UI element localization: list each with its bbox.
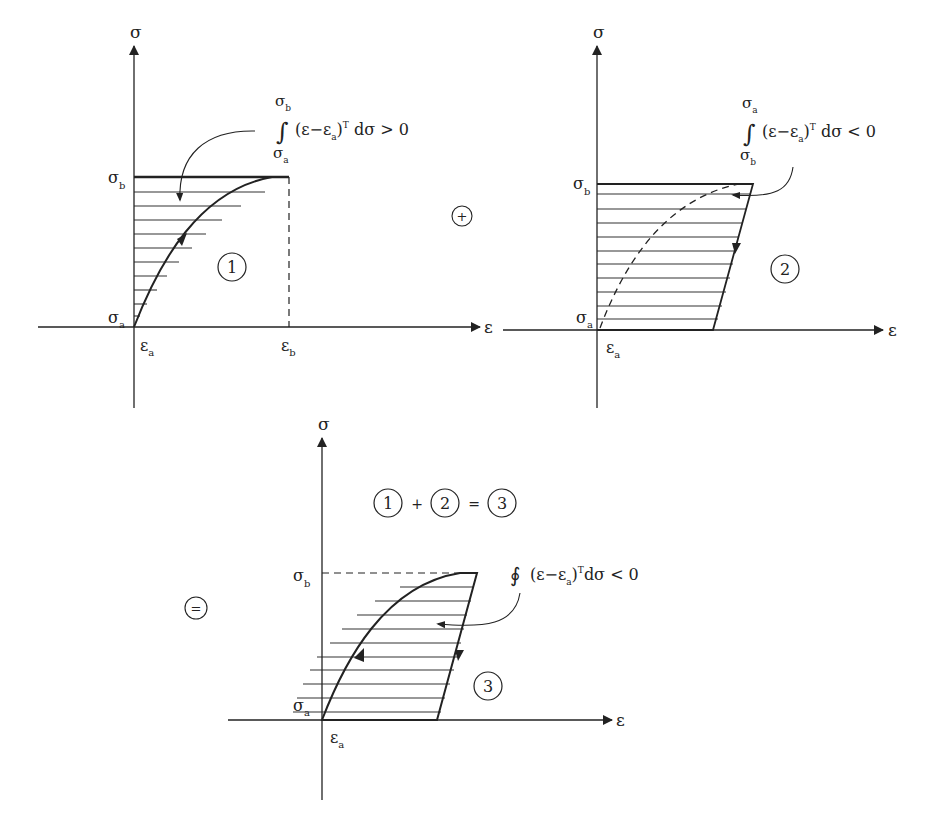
annotation-arrow-3	[438, 593, 520, 625]
region-number-1: 1	[227, 258, 237, 277]
eps-a-label-3: εa	[330, 728, 344, 750]
svg-text:(ε−εa)Tdσ < 0: (ε−εa)Tdσ < 0	[530, 565, 639, 587]
stress-strain-diagram-figure: σ σb σa εa εb 1 σb ∫ σa (ε−εa)T dσ > 0 +	[0, 0, 931, 834]
svg-text:∫: ∫	[743, 120, 756, 148]
sigma-b-label-2: σb	[573, 174, 590, 197]
loading-curve-1	[134, 177, 272, 327]
hatch-region-2	[597, 194, 750, 319]
svg-text:=: =	[191, 601, 202, 616]
sigma-a-label-2: σa	[576, 308, 593, 330]
eps-a-label-2: εa	[606, 338, 620, 360]
svg-text:+: +	[457, 209, 468, 224]
x-axis-label-2: ε	[888, 320, 897, 340]
annotation-arrow-2	[733, 167, 793, 196]
eps-a-label-1: εa	[140, 336, 154, 358]
svg-text:3: 3	[497, 494, 507, 513]
diagram-1: σ σb σa εa εb 1 σb ∫ σa (ε−εa)T dσ > 0	[38, 22, 480, 408]
svg-text:σa: σa	[742, 94, 758, 115]
hatch-region-3	[293, 587, 474, 712]
y-axis-label-1: σ	[130, 22, 142, 42]
integral-expression-3: ∮ (ε−εa)Tdσ < 0	[510, 563, 639, 587]
diagram-3: σ σb σa εa ε 3 1 + 2 = 3 ∮ (ε−εa)Tdσ < 0	[228, 414, 639, 800]
y-axis-label-3: σ	[318, 414, 330, 434]
svg-text:∫: ∫	[276, 118, 289, 146]
svg-text:σb: σb	[275, 92, 291, 113]
unloading-boundary-2	[597, 184, 753, 330]
hatch-region-1	[134, 192, 265, 316]
integral-expression-2: σa ∫ σb (ε−εa)T dσ < 0	[740, 94, 876, 167]
sigma-b-label-3: σb	[293, 566, 310, 589]
diagram-2: σ σb σa εa ε 2 σa ∫ σb (ε−εa)T dσ < 0	[503, 22, 897, 408]
svg-text:∮: ∮	[510, 563, 520, 587]
sigma-a-label-1: σa	[108, 308, 125, 330]
eps-b-label-1: εb	[281, 336, 296, 358]
region-number-2: 2	[780, 260, 790, 279]
svg-text:(ε−εa)T dσ > 0: (ε−εa)T dσ > 0	[295, 120, 409, 142]
annotation-arrow-1	[180, 131, 255, 200]
svg-text:=: =	[468, 496, 480, 512]
sigma-a-label-3: σa	[293, 696, 310, 718]
svg-text:σa: σa	[273, 144, 289, 165]
y-axis-label-2: σ	[593, 22, 605, 42]
region-sum-equation: 1 + 2 = 3	[374, 489, 516, 517]
svg-text:σb: σb	[740, 146, 756, 167]
equals-operator: =	[185, 597, 207, 619]
svg-text:2: 2	[440, 494, 450, 513]
svg-text:1: 1	[383, 494, 393, 513]
svg-text:(ε−εa)T dσ < 0: (ε−εa)T dσ < 0	[762, 122, 876, 144]
plus-operator: +	[452, 206, 472, 226]
sigma-b-label-1: σb	[108, 168, 125, 191]
x-axis-label-1: ε	[484, 317, 493, 337]
integral-expression-1: σb ∫ σa (ε−εa)T dσ > 0	[273, 92, 409, 165]
down-arrow-icon-3	[455, 650, 464, 661]
svg-text:+: +	[411, 496, 423, 512]
x-axis-label-3: ε	[616, 710, 625, 730]
region-number-3: 3	[483, 677, 493, 696]
